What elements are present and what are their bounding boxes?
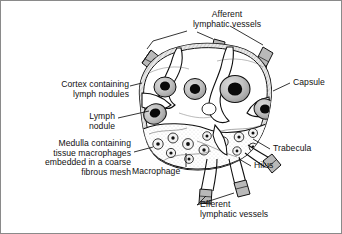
label-lymph-nodule: Lymph nodule — [57, 112, 115, 131]
lymph-node-figure: Afferent lymphatic vessels Cortex contai… — [0, 0, 342, 234]
lymph-nodule — [184, 79, 206, 100]
leader-afferent-middle — [197, 32, 213, 39]
label-afferent-lymphatic-vessels: Afferent lymphatic vessels — [165, 10, 289, 29]
label-efferent-lymphatic-vessels: Efferent lymphatic vessels — [200, 200, 310, 219]
label-medulla-containing-tissue-macrophages: Medulla containing tissue macrophages em… — [5, 139, 131, 177]
label-macrophage: Macrophage — [132, 167, 192, 177]
label-trabecula: Trabecula — [273, 144, 333, 154]
label-capsule: Capsule — [293, 78, 341, 88]
label-cortex-containing-lymph-nodules: Cortex containing lymph nodules — [19, 80, 129, 99]
lymph-nodule — [202, 103, 216, 115]
leader-capsule — [273, 83, 290, 91]
lymph-nodule — [220, 76, 250, 103]
lymph-nodule — [154, 77, 176, 97]
label-hilus: Hilus — [254, 161, 294, 171]
